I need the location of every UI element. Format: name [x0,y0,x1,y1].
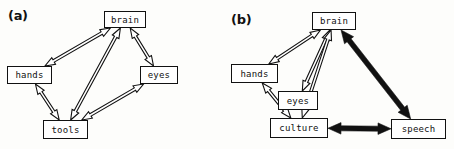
edge-hands-brain [45,28,110,66]
node-label-eyes: eyes [148,70,170,80]
edge-hands-tools [35,84,59,120]
edge-brain-eyes [130,28,153,66]
node-label-speech: speech [402,124,436,134]
edge-hands-brain [269,30,320,64]
edge-brain-speech [341,30,411,119]
node-hands: hands [7,66,52,84]
node-label-hands: hands [15,70,43,80]
node-speech: speech [391,119,446,139]
node-eyes: eyes [278,91,318,110]
node-label-tools: tools [51,125,79,135]
node-eyes: eyes [140,66,178,84]
figure-container: (a) brainhandseyestools (b) brainhandsey… [0,0,454,149]
node-label-eyes: eyes [287,96,309,106]
edge-brain-tools [71,28,121,120]
panel-a: (a) brainhandseyestools [0,0,227,149]
edge-eyes-tools [82,84,144,120]
panel-a-label: (a) [8,8,28,23]
node-brain: brain [104,11,146,28]
node-brain: brain [312,12,356,30]
node-tools: tools [43,120,88,139]
node-hands: hands [231,64,278,83]
edge-culture-speech [328,123,391,135]
node-label-brain: brain [111,15,139,25]
node-label-brain: brain [320,16,348,26]
panel-b: (b) brainhandseyesculturespeech [227,0,454,149]
node-label-hands: hands [240,69,268,79]
node-label-culture: culture [279,123,318,133]
panel-b-label: (b) [231,12,251,27]
node-culture: culture [270,118,328,138]
